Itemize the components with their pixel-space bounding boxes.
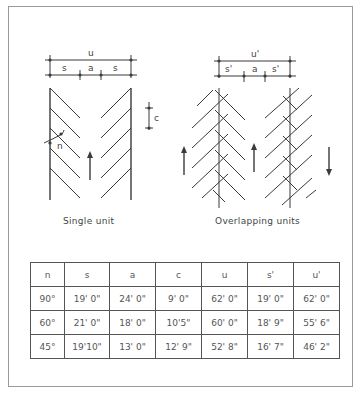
label-a-overlap: a <box>252 64 258 74</box>
table-row: 60° 21' 0" 18' 0" 10'5" 60' 0" 18' 9" 55… <box>31 311 340 335</box>
table-header-row: n s a c u s' u' <box>31 263 340 287</box>
label-a: a <box>88 63 94 73</box>
dimension-table: n s a c u s' u' 90° 19' 0" 24' 0" 9' 0" … <box>30 262 340 359</box>
label-s-left: s <box>62 63 67 73</box>
label-u-prime: u' <box>251 49 259 59</box>
label-c: c <box>154 113 159 123</box>
cell: 24' 0" <box>110 287 156 311</box>
arrowhead-up <box>87 151 93 158</box>
label-s-right: s <box>113 63 118 73</box>
cell: 18' 9" <box>248 311 294 335</box>
cell: 13' 0" <box>110 335 156 359</box>
single-unit-diagram <box>44 55 153 200</box>
cell: 52' 8" <box>202 335 248 359</box>
cell: 12' 9" <box>156 335 202 359</box>
cell: 46' 2" <box>294 335 340 359</box>
overlapping-units-diagram <box>184 56 329 208</box>
header-u: u <box>202 263 248 287</box>
cell: 45° <box>31 335 65 359</box>
cell: 60° <box>31 311 65 335</box>
cell: 21' 0" <box>65 311 110 335</box>
caption-overlapping-units: Overlapping units <box>215 216 300 226</box>
cell: 55' 6" <box>294 311 340 335</box>
header-s-prime: s' <box>248 263 294 287</box>
cell: 19' 0" <box>65 287 110 311</box>
header-s: s <box>65 263 110 287</box>
header-n: n <box>31 263 65 287</box>
label-s-prime-right: s' <box>272 64 279 74</box>
cell: 62' 0" <box>294 287 340 311</box>
table-row: 45° 19'10" 13' 0" 12' 9" 52' 8" 16' 7" 4… <box>31 335 340 359</box>
label-u: u <box>88 48 94 58</box>
cell: 60' 0" <box>202 311 248 335</box>
label-n: n <box>57 141 63 151</box>
cell: 19' 0" <box>248 287 294 311</box>
table-row: 90° 19' 0" 24' 0" 9' 0" 62' 0" 19' 0" 62… <box>31 287 340 311</box>
header-a: a <box>110 263 156 287</box>
header-c: c <box>156 263 202 287</box>
cell: 18' 0" <box>110 311 156 335</box>
cell: 10'5" <box>156 311 202 335</box>
cell: 16' 7" <box>248 335 294 359</box>
header-u-prime: u' <box>294 263 340 287</box>
cell: 19'10" <box>65 335 110 359</box>
caption-single-unit: Single unit <box>63 216 114 226</box>
cell: 90° <box>31 287 65 311</box>
cell: 62' 0" <box>202 287 248 311</box>
label-s-prime-left: s' <box>225 64 232 74</box>
cell: 9' 0" <box>156 287 202 311</box>
